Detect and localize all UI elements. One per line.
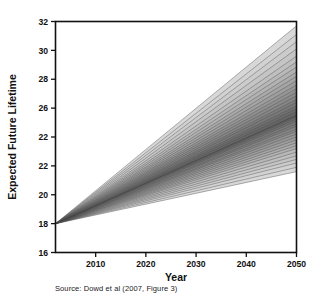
y-tick-label: 18 bbox=[38, 219, 48, 229]
y-axis-tick-labels: 161820222226283032 bbox=[38, 17, 48, 258]
y-tick-label: 16 bbox=[38, 248, 48, 258]
source-caption: Source: Dowd et al (2007, Figure 3) bbox=[55, 284, 177, 293]
y-tick-label: 20 bbox=[38, 190, 48, 200]
x-tick-label: 2030 bbox=[187, 259, 206, 269]
y-tick-label: 22 bbox=[38, 161, 48, 171]
y-tick-label: 28 bbox=[38, 74, 48, 84]
y-axis-title: Expected Future Lifetime bbox=[6, 74, 18, 200]
x-tick-label: 2040 bbox=[237, 259, 256, 269]
chart-canvas: 20102020203020402050 161820222226283032 … bbox=[0, 0, 317, 305]
y-tick-label: 30 bbox=[38, 46, 48, 56]
x-axis-tick-labels: 20102020203020402050 bbox=[86, 259, 306, 269]
fan-chart-figure: 20102020203020402050 161820222226283032 … bbox=[0, 0, 317, 305]
y-tick-label: 32 bbox=[38, 17, 48, 27]
x-tick-label: 2020 bbox=[136, 259, 155, 269]
y-tick-label: 26 bbox=[38, 103, 48, 113]
x-axis-title: Year bbox=[165, 271, 187, 283]
y-tick-label: 22 bbox=[38, 132, 48, 142]
x-tick-label: 2050 bbox=[287, 259, 306, 269]
x-tick-label: 2010 bbox=[86, 259, 105, 269]
